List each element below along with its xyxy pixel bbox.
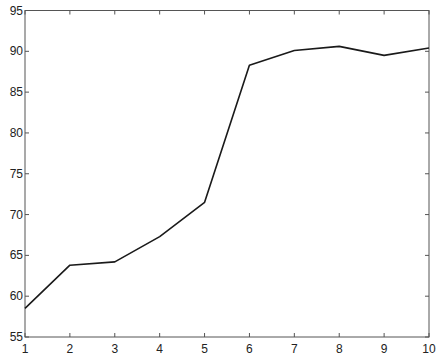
y-tick-label: 95	[10, 4, 24, 18]
axes-frame	[25, 11, 429, 338]
y-axis: 556065707580859095	[10, 4, 429, 345]
y-tick-label: 60	[10, 289, 24, 303]
y-tick-label: 65	[10, 248, 24, 262]
y-tick-label: 85	[10, 85, 24, 99]
x-axis: 12345678910	[22, 11, 436, 357]
y-tick-label: 70	[10, 208, 24, 222]
line-chart: 556065707580859095 12345678910	[0, 0, 441, 361]
y-tick-label: 80	[10, 126, 24, 140]
figure-caption-clipped	[0, 354, 441, 361]
y-tick-label: 90	[10, 44, 24, 58]
data-line	[25, 46, 429, 308]
y-tick-label: 75	[10, 167, 24, 181]
